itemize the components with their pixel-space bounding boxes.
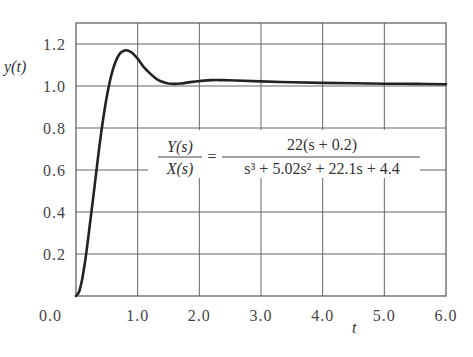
equation-lhs-numerator: Y(s) [167,138,193,156]
x-tick-label: 4.0 [311,307,334,324]
x-axis-label: t [352,319,357,336]
x-tick-label: 6.0 [435,307,458,324]
equation-equals: = [207,148,216,165]
y-axis-label: y(t) [2,58,26,76]
x-tick-label: 0.0 [39,307,62,324]
y-tick-label: 0.4 [43,204,66,221]
y-tick-label: 0.8 [43,120,66,137]
x-tick-label: 1.0 [126,307,149,324]
step-response-chart: Y(s) X(s) = 22(s + 0.2) s³ + 5.02s² + 22… [0,0,473,357]
x-axis-ticks: 0.01.02.03.04.05.06.0 [39,307,458,324]
equation-rhs-denominator: s³ + 5.02s² + 22.1s + 4.4 [244,160,399,177]
y-tick-label: 1.2 [43,36,66,53]
equation-lhs-denominator: X(s) [166,160,194,178]
y-tick-label: 1.0 [43,78,66,95]
y-tick-label: 0.2 [43,246,66,263]
y-tick-label: 0.6 [43,162,66,179]
x-tick-label: 3.0 [250,307,273,324]
x-tick-label: 5.0 [373,307,396,324]
x-tick-label: 2.0 [188,307,211,324]
equation-rhs-numerator: 22(s + 0.2) [287,136,357,154]
y-axis-ticks: 0.20.40.60.81.01.2 [43,36,66,263]
